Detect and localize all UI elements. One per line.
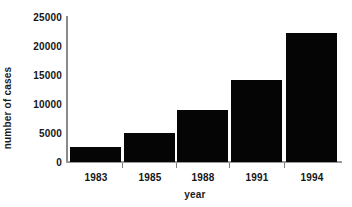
bar-1983: [70, 147, 121, 162]
y-axis-line: [66, 16, 68, 163]
y-tick-label: 20000: [18, 41, 62, 52]
x-tick-label: 1983: [68, 172, 124, 183]
x-tick-mark: [229, 163, 230, 168]
x-axis-tick-labels: 1983 1985 1988 1991 1994: [66, 172, 342, 188]
x-tick-label: 1988: [175, 172, 231, 183]
x-tick-mark: [284, 163, 285, 168]
bar-1988: [177, 110, 228, 162]
x-tick-label: 1985: [122, 172, 178, 183]
x-tick-mark: [176, 163, 177, 168]
y-tick-label: 0: [18, 157, 62, 168]
y-axis-tick-labels: 25000 20000 15000 10000 5000 0: [14, 0, 62, 207]
bar-chart: number of cases 25000 20000 15000 10000 …: [0, 0, 352, 207]
y-tick-label: 25000: [18, 12, 62, 23]
bar-1991: [231, 80, 282, 162]
bar-1985: [124, 133, 175, 162]
x-tick-label: 1994: [284, 172, 340, 183]
y-tick-label: 15000: [18, 70, 62, 81]
plot-area: [66, 16, 342, 163]
bar-1994: [286, 33, 337, 162]
x-tick-label: 1991: [229, 172, 285, 183]
x-tick-mark: [122, 163, 123, 168]
x-axis-label: year: [165, 189, 225, 200]
y-tick-label: 5000: [18, 128, 62, 139]
y-tick-label: 10000: [18, 99, 62, 110]
